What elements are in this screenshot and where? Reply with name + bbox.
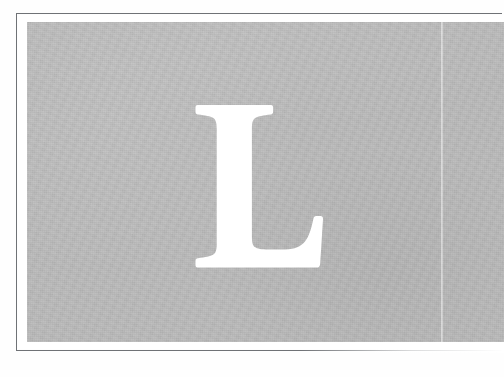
grey-panel [27,22,504,342]
paper-grain-overlay [27,22,504,342]
dropcap-letter-l [185,104,325,269]
dropcap-layer [27,22,504,342]
scan-tone-overlay [27,22,504,342]
dropcap-glyph-icon [185,104,325,269]
scanned-page [0,0,504,377]
page-gutter-line [441,22,443,342]
